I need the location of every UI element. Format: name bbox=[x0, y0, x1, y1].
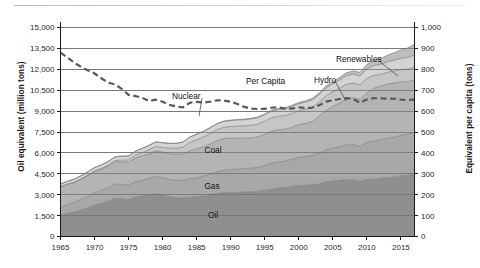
stacked-area-chart: RenewablesHydroPer CapitaNuclearCoalGasO… bbox=[0, 0, 480, 268]
y-tick-left: 7,500 bbox=[34, 128, 55, 137]
y-tick-left: 15,000 bbox=[30, 23, 55, 32]
y-tick-left: 13,500 bbox=[30, 44, 55, 53]
label-per-capita: Per Capita bbox=[246, 76, 286, 86]
y-tick-right: 100 bbox=[421, 212, 435, 221]
x-tick: 2010 bbox=[358, 243, 376, 252]
y-tick-left: 9,000 bbox=[34, 107, 55, 116]
y-axis-left-ticks: 01,5003,0004,5006,0007,5009,00010,50012,… bbox=[30, 23, 60, 241]
label-renewables: Renewables bbox=[336, 54, 382, 64]
x-tick: 1995 bbox=[256, 243, 274, 252]
y-axis-right-ticks: 01002003004005006007008009001,000 bbox=[415, 23, 442, 241]
x-tick: 1985 bbox=[188, 243, 206, 252]
x-axis-ticks: 1965197019751980198519901995200020052010… bbox=[52, 237, 411, 252]
y-tick-right: 600 bbox=[421, 107, 435, 116]
label-gas: Gas bbox=[204, 181, 219, 191]
y-tick-right: 800 bbox=[421, 65, 435, 74]
y-tick-right: 300 bbox=[421, 170, 435, 179]
x-tick: 1975 bbox=[120, 243, 138, 252]
label-nuclear: Nuclear bbox=[172, 91, 201, 101]
x-tick: 1965 bbox=[52, 243, 70, 252]
y-tick-right: 700 bbox=[421, 86, 435, 95]
y-tick-left: 10,500 bbox=[30, 86, 55, 95]
y-tick-left: 1,500 bbox=[34, 212, 55, 221]
x-tick: 1990 bbox=[222, 243, 240, 252]
x-tick: 2000 bbox=[290, 243, 308, 252]
y-tick-right: 500 bbox=[421, 128, 435, 137]
label-coal: Coal bbox=[204, 145, 221, 155]
y-tick-left: 12,000 bbox=[30, 65, 55, 74]
label-hydro: Hydro bbox=[314, 75, 337, 85]
x-tick: 2015 bbox=[392, 243, 410, 252]
x-tick: 1970 bbox=[86, 243, 104, 252]
y-tick-right: 0 bbox=[421, 232, 426, 241]
y-tick-left: 0 bbox=[50, 232, 55, 241]
x-tick: 2005 bbox=[324, 243, 342, 252]
y-tick-left: 3,000 bbox=[34, 191, 55, 200]
y-tick-left: 6,000 bbox=[34, 149, 55, 158]
y-tick-right: 1,000 bbox=[421, 23, 442, 32]
y-tick-right: 900 bbox=[421, 44, 435, 53]
x-tick: 1980 bbox=[154, 243, 172, 252]
chart-figure: Oil equivalent (million tons) Equivalent… bbox=[0, 0, 480, 268]
label-oil: Oil bbox=[208, 210, 218, 220]
y-tick-right: 200 bbox=[421, 191, 435, 200]
y-tick-right: 400 bbox=[421, 149, 435, 158]
y-tick-left: 4,500 bbox=[34, 170, 55, 179]
